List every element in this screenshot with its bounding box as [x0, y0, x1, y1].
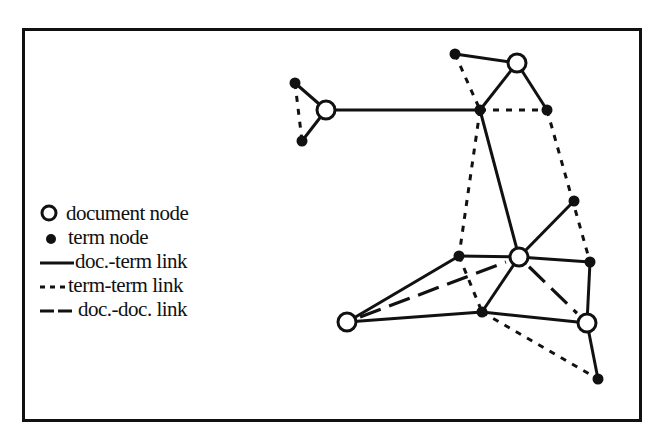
term-node — [542, 105, 553, 116]
doc-doc-link — [529, 267, 577, 313]
document-node — [510, 248, 528, 266]
term-node — [477, 307, 488, 318]
term-node — [290, 78, 301, 89]
term-node — [297, 136, 308, 147]
doc-term-link — [519, 201, 574, 257]
term-node — [454, 251, 465, 262]
term-node — [450, 49, 461, 60]
long-dash-line-icon — [38, 297, 82, 321]
term-term-link — [459, 256, 482, 312]
doc-term-link — [519, 257, 590, 262]
term-node — [475, 105, 486, 116]
doc-term-link — [347, 256, 459, 322]
term-term-link — [547, 110, 590, 262]
document-node — [578, 314, 596, 332]
term-node — [593, 374, 604, 385]
term-node — [585, 257, 596, 268]
legend-label: doc.-term link — [75, 249, 187, 273]
document-node — [508, 54, 526, 72]
legend-label: term-term link — [68, 273, 183, 297]
graph-nodes — [290, 49, 604, 385]
legend-label: term node — [68, 225, 148, 249]
document-node — [317, 101, 335, 119]
doc-term-link — [480, 110, 519, 257]
legend-label: document node — [66, 201, 188, 225]
term-term-link — [459, 110, 480, 256]
term-node — [569, 196, 580, 207]
term-term-link — [455, 54, 480, 110]
term-term-link — [295, 83, 302, 141]
graph-edges — [295, 54, 598, 379]
legend-label: doc.-doc. link — [78, 297, 187, 321]
document-node — [338, 313, 356, 331]
